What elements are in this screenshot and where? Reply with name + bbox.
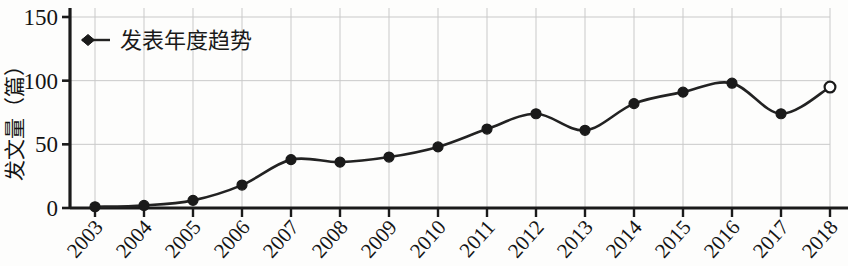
x-tick-label: 2004: [111, 215, 157, 263]
x-tick-label: 2017: [748, 215, 794, 262]
data-point-marker[interactable]: [433, 142, 443, 152]
x-tick-label: 2008: [307, 215, 353, 262]
data-point-marker[interactable]: [629, 99, 639, 109]
data-point-marker[interactable]: [90, 202, 100, 212]
y-tick-label: 50: [35, 132, 58, 157]
x-tick-label: 2007: [258, 215, 304, 262]
data-point-marker[interactable]: [825, 82, 836, 93]
data-point-marker[interactable]: [580, 125, 590, 135]
x-tick-label: 2018: [797, 215, 843, 262]
x-tick-label: 2015: [650, 215, 696, 262]
y-tick-label: 150: [24, 5, 59, 30]
data-point-marker[interactable]: [384, 152, 394, 162]
data-point-marker[interactable]: [335, 157, 345, 167]
data-point-marker[interactable]: [531, 109, 541, 119]
diamond-marker-icon: [82, 35, 95, 46]
data-point-marker[interactable]: [776, 109, 786, 119]
y-tick-label: 0: [47, 196, 59, 221]
x-tick-label: 2009: [356, 215, 402, 262]
x-tick-label: 2003: [62, 215, 108, 262]
x-tick-label: 2006: [209, 215, 255, 262]
x-tick-label: 2014: [601, 215, 647, 263]
data-point-marker[interactable]: [188, 195, 198, 205]
y-axis-label: 发文量（篇）: [3, 55, 27, 181]
data-point-marker[interactable]: [139, 200, 149, 210]
data-point-marker[interactable]: [678, 87, 688, 97]
publication-trend-chart: 050100150发文量（篇）2003200420052006200720082…: [0, 0, 848, 266]
x-tick-label: 2012: [503, 215, 549, 262]
chart-canvas: 050100150发文量（篇）2003200420052006200720082…: [0, 0, 848, 266]
data-point-marker[interactable]: [286, 155, 296, 165]
data-point-marker[interactable]: [237, 180, 247, 190]
x-tick-label: 2011: [454, 215, 499, 262]
x-tick-label: 2013: [552, 215, 598, 262]
x-tick-label: 2016: [699, 215, 745, 262]
x-tick-label: 2005: [160, 215, 206, 262]
y-tick-label: 100: [24, 69, 59, 94]
legend-label: 发表年度趋势: [120, 28, 252, 53]
x-tick-label: 2010: [405, 215, 451, 262]
data-point-marker[interactable]: [727, 78, 737, 88]
data-point-marker[interactable]: [482, 124, 492, 134]
